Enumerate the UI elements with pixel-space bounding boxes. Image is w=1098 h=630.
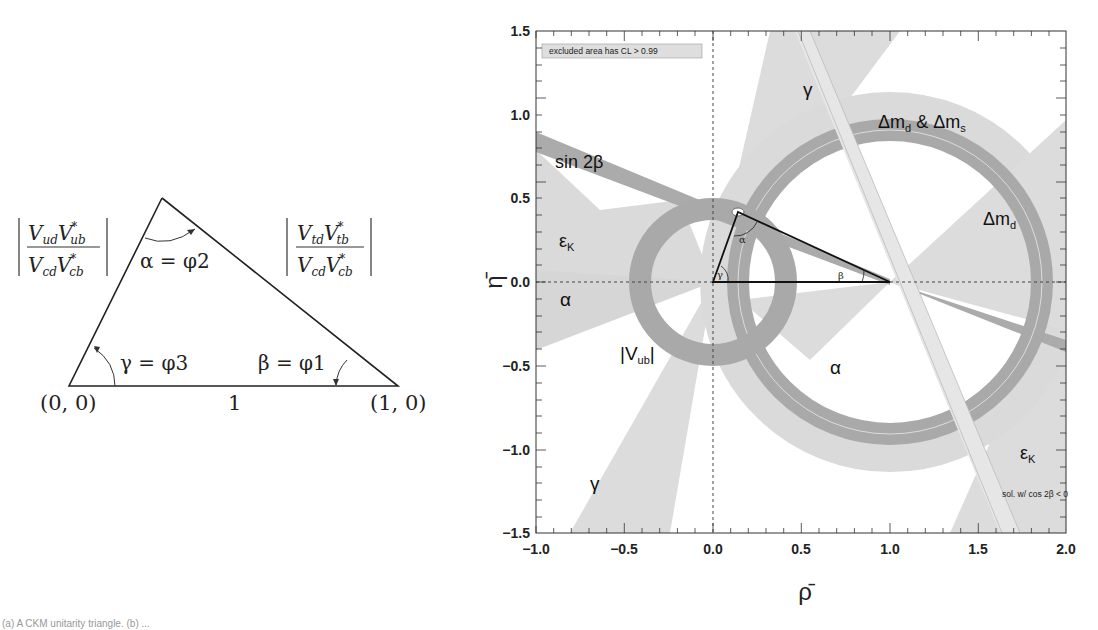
alpha-label: α = φ2 (140, 249, 210, 273)
x-tick-label: 2.0 (1056, 541, 1076, 557)
svg-text:VudV*ub: VudV*ub (28, 220, 86, 247)
label-alpha-left: α (560, 289, 571, 310)
label-gamma-top: γ (803, 79, 813, 100)
label-sin2beta: sin 2β (555, 152, 603, 172)
origin-vertex-label: (0, 0) (40, 391, 96, 415)
label-gamma-bottom: γ (590, 473, 600, 494)
y-tick-label: 1.0 (511, 107, 531, 123)
alpha-arc-icon (145, 229, 195, 241)
x-tick-label: 0.0 (703, 541, 723, 557)
y-tick-label: 1.5 (511, 23, 531, 39)
x-tick-label: 1.5 (968, 541, 988, 557)
x-tick-label: 1.0 (880, 541, 900, 557)
figure-caption: (a) A CKM unitarity triangle. (b) ... (2, 618, 150, 629)
ckm-constraints-chart: γ α β γ Δmd & Δms sin 2β Δmd εK α |Vub| … (480, 0, 1098, 630)
x-tick-label: 0.5 (791, 541, 811, 557)
x-tick-label: −1.0 (522, 541, 550, 557)
gamma-label: γ = φ3 (120, 351, 188, 375)
y-tick-label: −1.0 (502, 442, 530, 458)
y-tick-label: 0.5 (511, 190, 531, 206)
y-tick-label: −1.5 (502, 525, 530, 541)
svg-text:β: β (838, 270, 844, 281)
left-side-magnitude: VudV*ub VcdV*cb (19, 218, 107, 279)
svg-text:VcdV*cb: VcdV*cb (28, 252, 84, 279)
x-axis-title: ρ̄ (798, 578, 816, 605)
svg-text:VcdV*cb: VcdV*cb (297, 252, 353, 279)
annotation-cos2beta: sol. w/ cos 2β < 0 (1002, 489, 1068, 499)
label-vub: |Vub| (620, 343, 655, 366)
unitarity-triangle-diagram: VudV*ub VcdV*cb VtdV*tb VcdV*cb α = φ2 γ… (0, 0, 480, 630)
triangle-shape (69, 198, 398, 386)
gamma-arc-icon (94, 348, 115, 386)
right-vertex-label: (1, 0) (370, 391, 426, 415)
label-dmd-dms: Δmd & Δms (878, 112, 966, 134)
base-length-label: 1 (228, 391, 241, 415)
beta-label: β = φ1 (258, 351, 326, 375)
y-tick-label: 0.0 (511, 274, 531, 290)
svg-text:α: α (739, 234, 746, 245)
label-alpha-lower: α (830, 357, 841, 378)
y-axis-title: η̄ (480, 271, 507, 288)
legend-box: excluded area has CL > 0.99 (542, 44, 702, 58)
svg-text:γ: γ (717, 269, 723, 280)
legend-text: excluded area has CL > 0.99 (549, 46, 658, 56)
x-tick-label: −0.5 (610, 541, 638, 557)
svg-text:VtdV*tb: VtdV*tb (297, 220, 349, 247)
right-side-magnitude: VtdV*tb VcdV*cb (287, 218, 371, 279)
y-tick-label: −0.5 (502, 358, 530, 374)
